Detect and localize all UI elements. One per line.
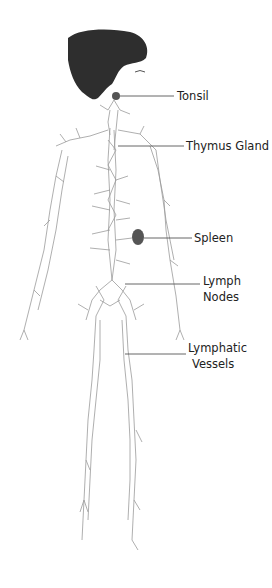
mouth-mark bbox=[135, 71, 145, 73]
tonsil-label: Tonsil bbox=[177, 88, 209, 104]
lymphatic-vessels-label-line2: Vessels bbox=[192, 356, 234, 372]
lymph-nodes-label-line2: Nodes bbox=[203, 289, 239, 305]
tonsil-shape bbox=[112, 92, 120, 100]
leader-lines bbox=[118, 96, 200, 354]
thymus-gland-label: Thymus Gland bbox=[186, 138, 269, 154]
head-silhouette bbox=[68, 30, 147, 100]
spleen-label: Spleen bbox=[194, 230, 233, 246]
lymph-nodes-label-line1: Lymph bbox=[203, 273, 241, 289]
lymph-vessels bbox=[20, 100, 184, 550]
lymphatic-vessels-label-line1: Lymphatic bbox=[188, 340, 247, 356]
spleen-shape bbox=[132, 229, 144, 245]
